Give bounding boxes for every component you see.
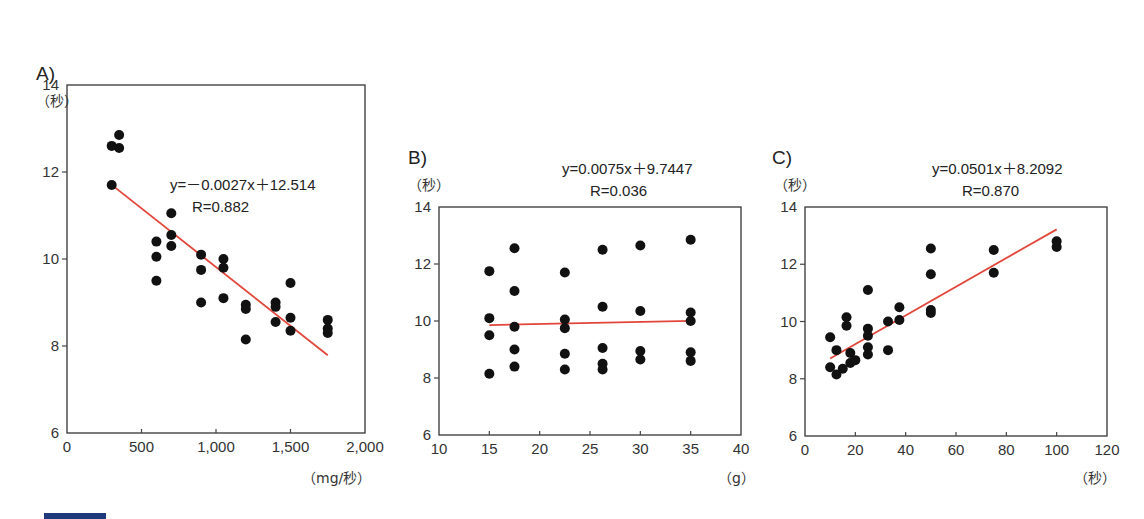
data-point — [241, 304, 251, 314]
chart-panel-a: 05001,0001,5002,00068101214A)（秒）（mg/秒）y=… — [36, 63, 384, 486]
data-point — [850, 355, 860, 365]
data-point — [883, 317, 893, 327]
x-tick-label: 15 — [481, 440, 498, 457]
y-tick-label: 8 — [51, 337, 59, 354]
x-tick-label: 100 — [1044, 441, 1069, 458]
x-tick-label: 0 — [801, 441, 809, 458]
x-tick-label: 500 — [129, 438, 154, 455]
y-tick-label: 8 — [423, 369, 431, 386]
regression-equation: y=0.0501x＋8.2092 — [932, 160, 1063, 177]
data-point — [686, 356, 696, 366]
x-tick-label: 25 — [582, 440, 599, 457]
chart-panel-b: 1015202530354068101214B)（秒）（g）y=0.0075x＋… — [408, 147, 755, 486]
data-point — [241, 334, 251, 344]
data-point — [510, 243, 520, 253]
data-point — [114, 143, 124, 153]
y-tick-label: 14 — [414, 198, 431, 215]
data-point — [686, 347, 696, 357]
data-point — [598, 364, 608, 374]
x-tick-label: 1,500 — [272, 438, 310, 455]
footer-accent-bar — [44, 513, 106, 519]
y-axis-unit-label: （秒） — [774, 177, 816, 193]
data-point — [842, 312, 852, 322]
data-point — [560, 323, 570, 333]
y-tick-label: 6 — [789, 427, 797, 444]
y-tick-label: 14 — [780, 198, 797, 215]
data-point — [166, 208, 176, 218]
data-point — [989, 268, 999, 278]
data-point — [863, 331, 873, 341]
data-point — [989, 245, 999, 255]
data-point — [196, 250, 206, 260]
data-point — [598, 245, 608, 255]
data-point — [107, 180, 117, 190]
x-tick-label: 2,000 — [346, 438, 384, 455]
data-point — [510, 322, 520, 332]
x-tick-label: 120 — [1094, 441, 1119, 458]
x-tick-label: 20 — [847, 441, 864, 458]
data-point — [686, 307, 696, 317]
y-axis-unit-label: （秒） — [36, 93, 78, 109]
data-point — [271, 317, 281, 327]
data-point — [863, 349, 873, 359]
plot-frame — [439, 207, 741, 435]
data-point — [560, 349, 570, 359]
data-point — [151, 276, 161, 286]
x-tick-label: 60 — [948, 441, 965, 458]
data-point — [323, 328, 333, 338]
data-point — [894, 302, 904, 312]
data-point — [510, 362, 520, 372]
x-tick-label: 0 — [63, 438, 71, 455]
data-point — [151, 252, 161, 262]
plot-frame — [67, 85, 365, 433]
y-axis-unit-label: （秒） — [408, 177, 450, 193]
data-point — [166, 230, 176, 240]
data-point — [484, 313, 494, 323]
x-tick-label: 40 — [897, 441, 914, 458]
x-tick-label: 30 — [632, 440, 649, 457]
data-point — [510, 345, 520, 355]
data-point — [218, 254, 228, 264]
data-point — [218, 263, 228, 273]
data-point — [635, 354, 645, 364]
data-point — [686, 235, 696, 245]
data-point — [635, 240, 645, 250]
data-point — [484, 330, 494, 340]
x-tick-label: 20 — [531, 440, 548, 457]
panel-label: C) — [772, 147, 792, 168]
data-point — [560, 364, 570, 374]
x-tick-label: 80 — [998, 441, 1015, 458]
data-point — [883, 345, 893, 355]
data-point — [635, 346, 645, 356]
data-point — [271, 302, 281, 312]
y-tick-label: 12 — [414, 255, 431, 272]
data-point — [114, 130, 124, 140]
data-point — [560, 268, 570, 278]
regression-equation: y=0.0075x＋9.7447 — [562, 160, 693, 177]
data-point — [842, 321, 852, 331]
y-tick-label: 10 — [42, 250, 59, 267]
x-tick-label: 40 — [733, 440, 750, 457]
regression-line — [489, 321, 690, 325]
y-tick-label: 10 — [414, 312, 431, 329]
data-point — [484, 266, 494, 276]
data-point — [894, 315, 904, 325]
panel-label: B) — [408, 147, 427, 168]
x-axis-unit-label: （mg/秒） — [302, 470, 371, 486]
data-point — [598, 343, 608, 353]
y-tick-label: 6 — [51, 424, 59, 441]
x-axis-unit-label: （秒） — [1074, 470, 1116, 486]
data-point — [151, 237, 161, 247]
data-point — [560, 315, 570, 325]
correlation-coefficient: R=0.882 — [192, 198, 249, 215]
data-point — [166, 241, 176, 251]
plot-frame — [805, 207, 1107, 436]
data-point — [218, 293, 228, 303]
data-point — [831, 345, 841, 355]
data-point — [1052, 242, 1062, 252]
x-tick-label: 35 — [682, 440, 699, 457]
scatter-charts: 05001,0001,5002,00068101214A)（秒）（mg/秒）y=… — [0, 0, 1144, 519]
x-axis-unit-label: （g） — [718, 470, 755, 486]
data-point — [863, 285, 873, 295]
data-point — [686, 316, 696, 326]
